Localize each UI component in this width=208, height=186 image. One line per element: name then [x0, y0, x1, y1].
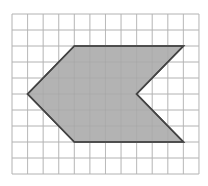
- grid-diagram: [0, 0, 208, 186]
- grid-lines-overlay: [12, 14, 199, 174]
